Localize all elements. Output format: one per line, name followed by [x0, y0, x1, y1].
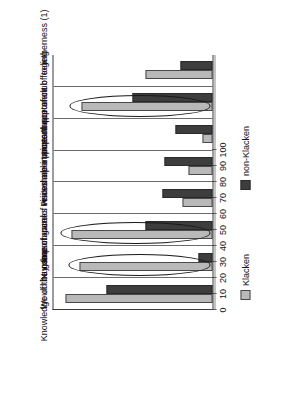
- legend-label: Klacken: [240, 254, 250, 286]
- chart-stage: Knowledge of the gameWould buy season ca…: [0, 0, 307, 400]
- bar-non-klacken: [145, 221, 212, 230]
- bar-non-klacken: [132, 93, 212, 102]
- value-axis-tick-label: 10: [218, 289, 227, 299]
- bar-non-klacken: [175, 125, 212, 134]
- bar-klacken: [65, 294, 212, 303]
- bar-group: [53, 54, 212, 86]
- bar-klacken: [145, 70, 212, 79]
- chart-legend: Klackennon-Klacken: [236, 55, 276, 310]
- category-axis: Knowledge of the gameWould buy season ca…: [0, 55, 50, 310]
- value-axis-tick-label: 80: [218, 177, 227, 187]
- value-axis-secondary-line: [214, 55, 215, 310]
- value-axis-tick-label: 90: [218, 161, 227, 171]
- value-axis-tick-label: 40: [218, 241, 227, 251]
- value-axis-tick-label: 60: [218, 209, 227, 219]
- category-label: Importance of togetherness (1): [38, 9, 48, 132]
- bar-klacken: [188, 166, 212, 175]
- bar-group: [53, 86, 212, 118]
- value-axis-tick-label: 50: [218, 225, 227, 235]
- bar-non-klacken: [106, 285, 212, 294]
- bar-non-klacken: [164, 157, 212, 166]
- legend-swatch-klacken: [240, 290, 250, 300]
- legend-item: non-Klacken: [240, 126, 250, 190]
- value-axis-line: 0102030405060708090100: [212, 55, 213, 310]
- bar-klacken: [71, 230, 212, 239]
- bar-group: [53, 150, 212, 182]
- bar-group: [53, 245, 212, 277]
- bar-group: [53, 182, 212, 214]
- plot-area: [52, 55, 212, 310]
- legend-label: non-Klacken: [240, 126, 250, 176]
- bar-klacken: [79, 262, 212, 271]
- bar-klacken: [202, 134, 212, 143]
- bar-klacken: [81, 102, 212, 111]
- value-axis-tick-label: 100: [218, 142, 227, 157]
- bar-group: [53, 213, 212, 245]
- legend-item: Klacken: [240, 254, 250, 300]
- value-axis-tick-label: 70: [218, 193, 227, 203]
- value-axis-tick-label: 0: [218, 307, 227, 312]
- bar-non-klacken: [180, 61, 212, 70]
- plot-area-container: [52, 55, 212, 310]
- bar-group: [53, 277, 212, 309]
- grouped-bar-chart: Knowledge of the gameWould buy season ca…: [0, 0, 307, 400]
- value-axis-tick-label: 20: [218, 273, 227, 283]
- bar-group: [53, 118, 212, 150]
- bar-klacken: [182, 198, 212, 207]
- legend-swatch-non-klacken: [240, 180, 250, 190]
- bar-non-klacken: [162, 189, 212, 198]
- bar-non-klacken: [198, 253, 212, 262]
- value-axis-tick-label: 30: [218, 257, 227, 267]
